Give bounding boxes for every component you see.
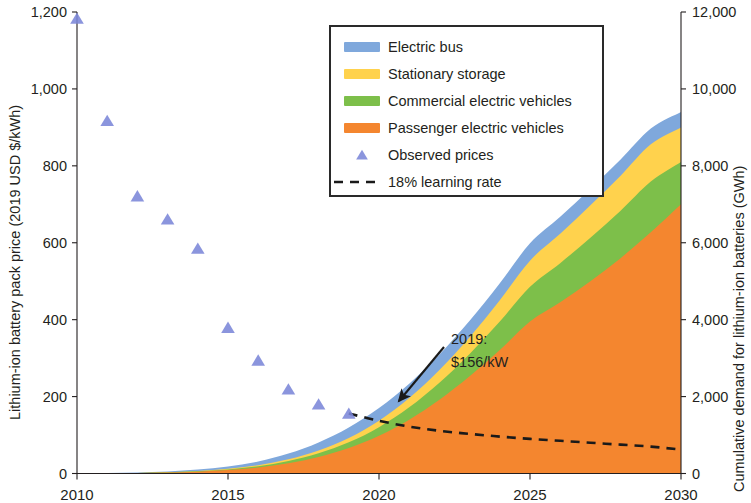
x-tick-label: 2025: [513, 486, 546, 503]
legend-swatch: [344, 123, 380, 133]
legend-swatch: [344, 42, 380, 52]
y-right-tick-label: 2,000: [692, 389, 728, 405]
y-right-tick-label: 12,000: [692, 4, 736, 20]
y-right-tick-label: 10,000: [692, 81, 736, 97]
legend-label: Stationary storage: [388, 66, 506, 82]
y-axis-right-title: Cumulative demand for lithium-ion batter…: [731, 166, 747, 492]
x-tick-label: 2015: [211, 486, 244, 503]
x-tick-label: 2020: [362, 486, 395, 503]
annotation-line1: 2019:: [451, 331, 487, 347]
legend-label: 18% learning rate: [388, 174, 502, 190]
legend-swatch: [344, 96, 380, 106]
x-tick-label: 2030: [664, 486, 697, 503]
annotation-line2: $156/kW: [451, 354, 509, 370]
legend-label: Commercial electric vehicles: [388, 93, 572, 109]
chart-figure: 02004006008001,0001,200 02,0004,0006,000…: [0, 0, 751, 503]
battery-price-demand-chart: 02004006008001,0001,200 02,0004,0006,000…: [0, 0, 751, 503]
y-axis-left-title: Lithium-ion battery pack price (2019 USD…: [7, 105, 23, 420]
y-left-tick-label: 0: [59, 466, 67, 482]
y-left-tick-label: 1,200: [31, 4, 67, 20]
y-left-tick-label: 600: [43, 235, 67, 251]
y-left-tick-label: 400: [43, 312, 67, 328]
y-left-tick-label: 800: [43, 158, 67, 174]
y-left-tick-label: 1,000: [31, 81, 67, 97]
y-right-tick-label: 8,000: [692, 158, 728, 174]
y-right-tick-label: 0: [692, 466, 700, 482]
legend-label: Passenger electric vehicles: [388, 120, 564, 136]
y-right-tick-label: 4,000: [692, 312, 728, 328]
y-right-tick-label: 6,000: [692, 235, 728, 251]
chart-legend: Electric busStationary storageCommercial…: [330, 26, 603, 196]
legend-label: Observed prices: [388, 147, 494, 163]
legend-swatch: [344, 69, 380, 79]
x-tick-label: 2010: [60, 486, 93, 503]
legend-label: Electric bus: [388, 39, 463, 55]
y-left-tick-label: 200: [43, 389, 67, 405]
